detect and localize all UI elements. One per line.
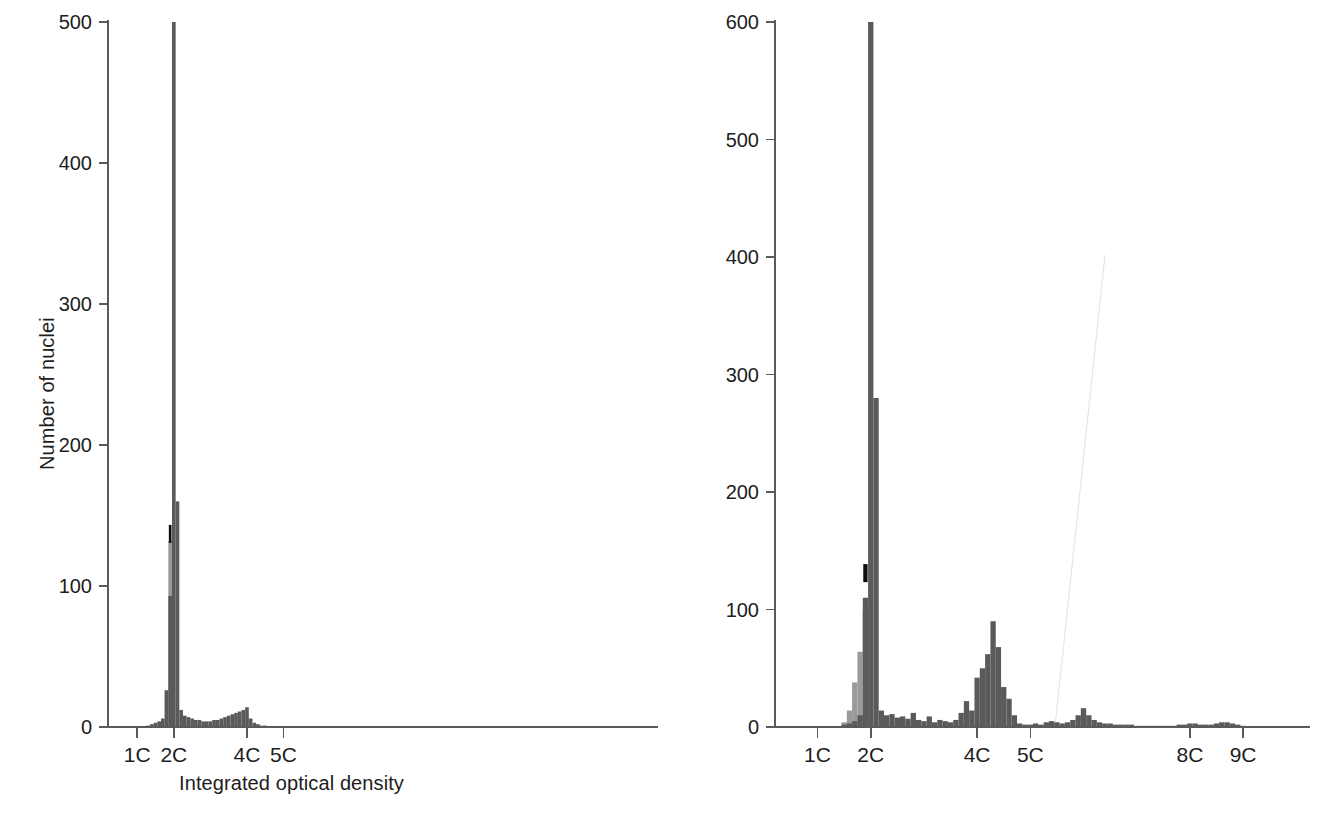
y-tick-label: 300 [726,364,759,386]
histogram-bar [974,678,979,727]
histogram-bar [1006,699,1011,727]
histogram-bar [985,654,990,727]
histogram-bar [187,717,191,727]
x-tick-label: 2C [857,743,884,766]
right-plot-area: 01002003004005006001C2C4C5C8C9C [660,0,1321,815]
histogram-bar [943,721,948,727]
histogram-bar [921,721,926,727]
histogram-bar [1049,721,1054,727]
histogram-bar [220,719,224,727]
histogram-bar [209,721,213,727]
x-tick-label: 5C [270,743,297,766]
y-tick-label: 400 [726,246,759,268]
histogram-bar [234,713,238,727]
histogram-bar [964,701,969,727]
histogram-bar [980,668,985,727]
histogram-bar [216,720,220,727]
histogram-bar [911,713,916,727]
histogram-bar [249,719,253,727]
histogram-bar [879,711,884,727]
histogram-bar [873,398,878,727]
histogram-bar [1001,687,1006,727]
truncation-cap [169,525,172,543]
y-tick-label: 500 [726,129,759,151]
histogram-bar [1012,715,1017,727]
histogram-bar [959,713,964,727]
histogram-bar [857,715,862,727]
histogram-bar [231,714,235,727]
histogram-bar [157,721,161,727]
y-tick-label: 200 [59,434,92,456]
histogram-bars [841,22,1245,727]
histogram-bar [1081,708,1086,727]
y-tick-label: 500 [59,11,92,33]
histogram-bar [863,598,868,727]
y-tick-label: 0 [748,716,759,738]
histogram-bar [245,707,249,727]
histogram-bar [1086,715,1091,727]
histogram-bar [969,711,974,727]
x-tick-label: 2C [160,743,187,766]
histogram-bar [953,720,958,727]
histogram-bar [168,596,172,727]
histogram-bar [990,621,995,727]
histogram-bar [889,714,894,727]
histogram-bar [201,721,205,727]
histogram-bar [916,720,921,727]
panel-right: 01002003004005006001C2C4C5C8C9C Number o… [660,0,1321,815]
histogram-bar [868,22,873,727]
x-tick-label: 1C [804,743,831,766]
x-tick-label: 1C [124,743,151,766]
scan-artifact-line [1055,255,1105,727]
histogram-bar [194,720,198,727]
x-tick-label: 5C [1017,743,1044,766]
histogram-bars [146,22,267,727]
histogram-bar [205,721,209,727]
histogram-bar [905,719,910,727]
y-tick-label: 200 [726,481,759,503]
histogram-bar [227,716,231,727]
histogram-bar [172,22,176,727]
x-tick-label: 4C [964,743,991,766]
histogram-bar [190,719,194,727]
x-tick-label: 9C [1230,743,1257,766]
x-axis-title-left: Integrated optical density [179,772,404,795]
histogram-bar [996,647,1001,727]
y-tick-label: 100 [726,599,759,621]
histogram-bar [852,682,857,727]
panel-left: 01002003004005001C2C4C5C Number of nucle… [0,0,660,815]
histogram-bar [176,501,180,727]
histogram-bar [223,717,227,727]
histogram-bar [198,720,202,727]
x-tick-label: 8C [1176,743,1203,766]
y-tick-label: 100 [59,575,92,597]
y-tick-label: 300 [59,293,92,315]
histogram-bar [212,720,216,727]
histogram-bar [241,710,245,727]
histogram-figure: 01002003004005001C2C4C5C Number of nucle… [0,0,1321,815]
left-plot-area: 01002003004005001C2C4C5C [0,0,660,815]
histogram-bar [179,710,183,727]
x-tick-label: 4C [234,743,261,766]
y-tick-label: 600 [726,11,759,33]
histogram-bar [900,716,905,727]
y-tick-label: 400 [59,152,92,174]
histogram-bar [884,715,889,727]
histogram-bar [1070,720,1075,727]
histogram-bar [238,711,242,727]
truncation-cap [863,564,867,582]
histogram-bar [1091,720,1096,727]
histogram-bar [183,716,187,727]
histogram-bar [852,721,857,727]
y-tick-label: 0 [81,716,92,738]
histogram-bar [927,716,932,727]
histogram-bar [165,690,169,727]
histogram-bar [1076,715,1081,727]
histogram-bar [937,720,942,727]
histogram-bar [895,718,900,727]
histogram-bar [161,719,165,727]
y-axis-title-left: Number of nuclei [36,317,59,470]
